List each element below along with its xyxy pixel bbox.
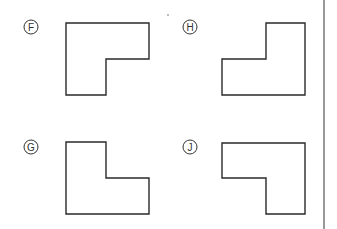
option-j-l-shape — [222, 143, 305, 214]
option-f-l-shape — [66, 23, 149, 95]
option-g-letter: G — [27, 142, 35, 153]
option-g[interactable]: G — [24, 140, 149, 214]
option-h-letter: H — [186, 22, 193, 33]
option-h-l-shape — [222, 23, 305, 95]
print-speck — [167, 14, 169, 16]
option-j[interactable]: J — [183, 140, 305, 214]
option-f-letter: F — [28, 22, 34, 33]
option-j-letter: J — [188, 142, 193, 153]
option-g-l-shape — [66, 142, 149, 214]
option-h[interactable]: H — [183, 20, 305, 95]
answer-choices-figure: F H G J — [0, 0, 337, 229]
option-f[interactable]: F — [24, 20, 149, 95]
